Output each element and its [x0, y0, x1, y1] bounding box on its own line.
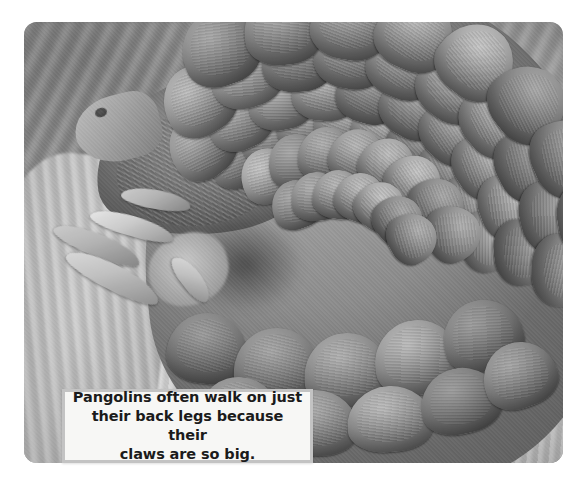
page-root: Pangolins often walk on justtheir back l… — [0, 0, 586, 486]
caption-box: Pangolins often walk on justtheir back l… — [62, 389, 313, 463]
caption-text: Pangolins often walk on justtheir back l… — [65, 388, 310, 464]
caption-line: Pangolins often walk on just — [73, 389, 302, 405]
caption-line: claws are so big. — [120, 446, 255, 462]
caption-line: their back legs because their — [92, 408, 284, 443]
